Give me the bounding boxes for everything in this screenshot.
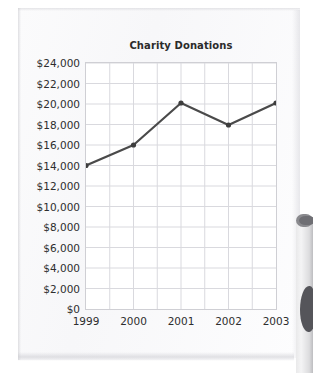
y-axis-tick-label: $12,000 bbox=[10, 180, 80, 192]
y-axis-tick-label: $10,000 bbox=[10, 201, 80, 213]
y-axis-tick-label: $24,000 bbox=[10, 57, 80, 69]
data-point-marker bbox=[226, 122, 231, 127]
y-axis-tick-label: $2,000 bbox=[10, 283, 80, 295]
y-axis-tick-label: $22,000 bbox=[10, 78, 80, 90]
x-axis-tick-label: 2003 bbox=[263, 315, 290, 327]
x-axis-labels: 19992000200120022003 bbox=[85, 315, 277, 333]
x-axis-tick-label: 2002 bbox=[215, 315, 242, 327]
paper-edge-bottom bbox=[18, 352, 294, 361]
y-axis-tick-label: $16,000 bbox=[10, 139, 80, 151]
x-axis-tick-label: 2001 bbox=[168, 315, 195, 327]
y-axis-labels: $24,000$22,000$20,000$18,000$16,000$14,0… bbox=[10, 56, 80, 316]
plot-area bbox=[85, 62, 277, 310]
screenshot-root: Charity Donations $24,000$22,000$20,000$… bbox=[0, 0, 313, 373]
y-axis-tick-label: $6,000 bbox=[10, 242, 80, 254]
mug-rim-inner bbox=[299, 216, 313, 225]
data-point-marker bbox=[131, 142, 136, 147]
paper-edge-top bbox=[18, 8, 300, 11]
y-axis-tick-label: $20,000 bbox=[10, 98, 80, 110]
data-point-marker bbox=[178, 100, 183, 105]
line-chart-svg bbox=[86, 63, 276, 309]
y-axis-tick-label: $0 bbox=[10, 303, 80, 315]
chart-title: Charity Donations bbox=[85, 40, 277, 51]
y-axis-tick-label: $4,000 bbox=[10, 262, 80, 274]
y-axis-tick-label: $18,000 bbox=[10, 119, 80, 131]
mug-logo bbox=[300, 286, 313, 332]
x-axis-tick-label: 1999 bbox=[73, 315, 100, 327]
y-axis-tick-label: $8,000 bbox=[10, 221, 80, 233]
y-axis-tick-label: $14,000 bbox=[10, 160, 80, 172]
coffee-mug bbox=[296, 212, 313, 373]
x-axis-tick-label: 2000 bbox=[120, 315, 147, 327]
